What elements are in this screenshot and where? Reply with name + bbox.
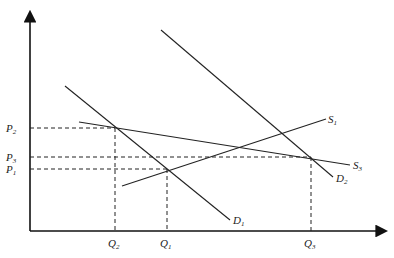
price-label-p2: P2 xyxy=(5,122,17,136)
dashed-guides xyxy=(30,128,311,231)
diagram-canvas: P2P3P1Q2Q1Q3D1D2S1S3 xyxy=(0,0,394,258)
quantity-label-q3: Q3 xyxy=(304,237,316,251)
curve-s3 xyxy=(79,122,350,165)
curve-label-d1: D1 xyxy=(232,214,244,228)
quantity-label-q1: Q1 xyxy=(160,237,171,251)
price-label-p1: P1 xyxy=(5,163,16,177)
quantity-label-q2: Q2 xyxy=(108,237,120,251)
supply-demand-diagram: P2P3P1Q2Q1Q3D1D2S1S3 xyxy=(0,0,394,258)
curves xyxy=(65,30,350,220)
curve-d1 xyxy=(65,86,230,220)
curve-label-s3: S3 xyxy=(353,159,363,173)
curve-label-s1: S1 xyxy=(328,113,337,127)
curve-label-d2: D2 xyxy=(335,172,348,186)
curve-s1 xyxy=(122,119,326,186)
curve-d2 xyxy=(161,30,333,177)
